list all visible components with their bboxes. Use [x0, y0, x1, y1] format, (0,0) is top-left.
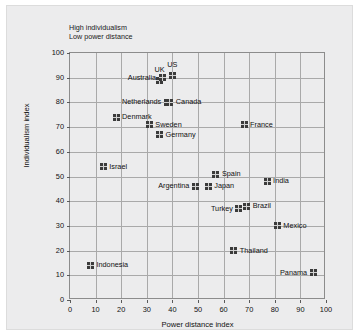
y-axis-tick	[67, 152, 70, 153]
data-point-label: Thailand	[240, 246, 268, 255]
data-point-marker[interactable]	[100, 163, 107, 170]
chart-figure: High individualism Low power distance Hi…	[0, 0, 359, 335]
y-axis-tick-label: 80	[36, 97, 64, 106]
x-axis-tick-label: 30	[134, 305, 160, 314]
data-point-marker[interactable]	[212, 171, 219, 178]
x-axis-tick	[198, 300, 199, 303]
x-axis-tick-label: 10	[83, 305, 109, 314]
y-axis-tick	[67, 102, 70, 103]
data-point-label: Japan	[214, 181, 234, 190]
data-point-label: Denmark	[122, 112, 152, 121]
data-point-label: Turkey	[211, 204, 239, 213]
data-point-label: Mexico	[283, 221, 306, 230]
data-point-marker[interactable]	[205, 183, 212, 190]
gridline-vertical	[172, 53, 173, 298]
data-point-label: Netherlands	[122, 97, 167, 106]
y-axis-tick-label: 100	[36, 48, 64, 57]
data-point-label: Australia	[128, 73, 162, 82]
y-axis-tick-label: 30	[36, 221, 64, 230]
y-axis-tick-label: 10	[36, 270, 64, 279]
x-axis-tick-label: 100	[313, 305, 339, 314]
data-point-label: Brazil	[253, 201, 271, 210]
gridline-horizontal	[70, 78, 324, 79]
x-axis-tick	[300, 300, 301, 303]
data-point-label: Indonesia	[96, 260, 128, 269]
y-axis-tick-label: 0	[36, 295, 64, 304]
gridline-horizontal	[70, 201, 324, 202]
gridline-vertical	[300, 53, 301, 298]
y-axis-tick	[67, 300, 70, 301]
gridline-vertical	[198, 53, 199, 298]
y-axis-tick	[67, 53, 70, 54]
data-point-label: US	[167, 60, 177, 69]
x-axis-tick	[275, 300, 276, 303]
data-point-label: France	[250, 120, 273, 129]
y-axis-tick-label: 40	[36, 196, 64, 205]
y-axis-tick	[67, 251, 70, 252]
x-axis-tick	[172, 300, 173, 303]
data-point-label: India	[273, 176, 289, 185]
data-point-label: Argentina	[158, 181, 195, 190]
x-axis-tick-label: 20	[108, 305, 134, 314]
data-point-marker[interactable]	[241, 121, 248, 128]
data-point-label: Panama	[280, 268, 313, 277]
gridline-horizontal	[70, 127, 324, 128]
data-point-marker[interactable]	[243, 203, 250, 210]
data-point-label: Canada	[176, 97, 202, 106]
x-axis-tick	[326, 300, 327, 303]
y-axis-tick	[67, 226, 70, 227]
data-point-marker[interactable]	[156, 131, 163, 138]
data-point-marker[interactable]	[146, 121, 153, 128]
data-point-marker[interactable]	[274, 222, 281, 229]
data-point-marker[interactable]	[113, 114, 120, 121]
gridline-horizontal	[70, 251, 324, 252]
x-axis-tick-label: 60	[211, 305, 237, 314]
x-axis-tick	[249, 300, 250, 303]
y-axis-tick-label: 90	[36, 73, 64, 82]
y-axis-title: Individualism index	[22, 76, 31, 196]
x-axis-tick	[224, 300, 225, 303]
y-axis-tick	[67, 201, 70, 202]
y-axis-tick	[67, 275, 70, 276]
data-point-marker[interactable]	[166, 99, 173, 106]
gridline-vertical	[147, 53, 148, 298]
y-axis-tick-label: 70	[36, 122, 64, 131]
data-point-marker[interactable]	[230, 247, 237, 254]
x-axis-tick-label: 0	[57, 305, 83, 314]
x-axis-tick	[121, 300, 122, 303]
annotation-bottom-right: High power distance Low individualism	[350, 319, 359, 335]
data-point-label: Israel	[109, 162, 127, 171]
y-axis-tick-label: 50	[36, 172, 64, 181]
x-axis-tick	[70, 300, 71, 303]
x-axis-title: Power distance index	[69, 320, 326, 329]
data-point-marker[interactable]	[264, 178, 271, 185]
annotation-top-left: High individualism Low power distance	[69, 23, 133, 42]
x-axis-tick-label: 80	[262, 305, 288, 314]
y-axis-tick-label: 20	[36, 246, 64, 255]
x-axis-tick-label: 90	[287, 305, 313, 314]
y-axis-tick	[67, 127, 70, 128]
y-axis-tick	[67, 78, 70, 79]
x-axis-tick-label: 70	[236, 305, 262, 314]
gridline-horizontal	[70, 152, 324, 153]
plot-area: 0102030405060708090100010203040506070809…	[69, 52, 325, 299]
x-axis-tick	[147, 300, 148, 303]
data-point-marker[interactable]	[169, 72, 176, 79]
x-axis-tick-label: 40	[159, 305, 185, 314]
x-axis-tick	[96, 300, 97, 303]
x-axis-tick-label: 50	[185, 305, 211, 314]
y-axis-tick-label: 60	[36, 147, 64, 156]
data-point-label: Sweden	[155, 120, 181, 129]
y-axis-tick	[67, 177, 70, 178]
data-point-label: Germany	[166, 130, 196, 139]
gridline-vertical	[249, 53, 250, 298]
data-point-marker[interactable]	[87, 262, 94, 269]
chart-panel: High individualism Low power distance Hi…	[6, 5, 353, 330]
data-point-label: Spain	[222, 169, 241, 178]
